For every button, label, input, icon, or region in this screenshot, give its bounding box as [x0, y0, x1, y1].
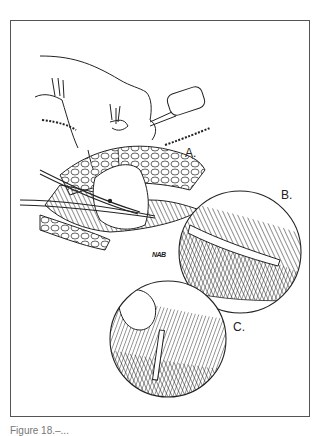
panel-label-a: A. [185, 146, 196, 160]
panel-label-c: C. [233, 320, 245, 334]
incision-tissue [40, 146, 205, 250]
panel-label-b: B. [281, 188, 292, 202]
artist-signature: NAB [152, 251, 166, 258]
retractor-clip [150, 85, 207, 126]
figure-caption: Figure 18.–... [10, 425, 69, 436]
